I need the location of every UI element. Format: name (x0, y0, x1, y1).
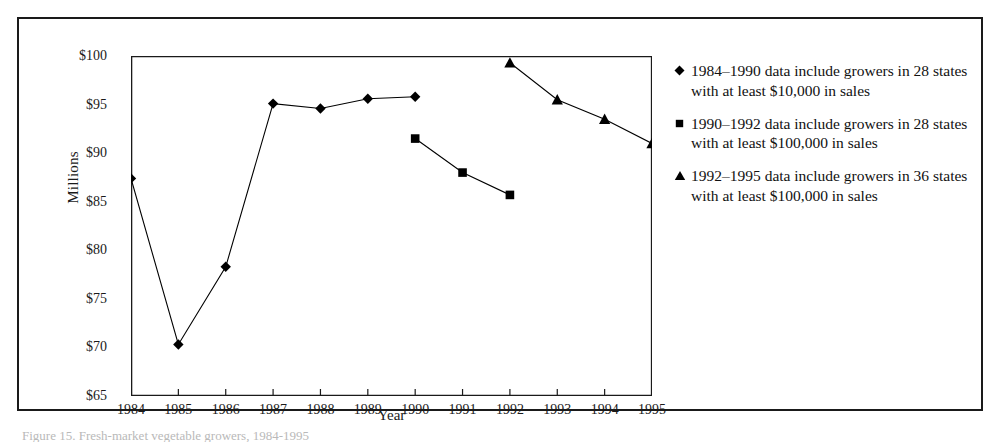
legend-item-series-1: 1984–1990 data include growers in 28 sta… (674, 61, 984, 101)
x-axis-title: Year (131, 407, 652, 424)
y-axis-tick-label: $85 (39, 194, 107, 210)
figure-container: Millions $65$70$75$80$85$90$95$100 19841… (0, 0, 997, 444)
plot-area (131, 56, 652, 396)
figure-caption: Figure 15. Fresh-market vegetable grower… (22, 428, 722, 442)
triangle-marker-icon (674, 170, 691, 181)
legend-label-series-3: 1992–1995 data include growers in 36 sta… (691, 166, 984, 206)
figure-frame: Millions $65$70$75$80$85$90$95$100 19841… (17, 17, 983, 411)
legend-label-series-1: 1984–1990 data include growers in 28 sta… (691, 61, 984, 101)
y-axis-tick-label: $70 (39, 339, 107, 355)
y-axis-tick-label: $100 (39, 48, 107, 64)
y-axis-tick-label: $65 (39, 388, 107, 404)
legend-item-series-2: 1990–1992 data include growers in 28 sta… (674, 114, 984, 154)
y-axis-tick-label: $90 (39, 145, 107, 161)
diamond-marker-icon (674, 65, 691, 76)
y-axis-title: Millions (65, 118, 82, 238)
square-marker-icon (674, 118, 691, 129)
y-axis-tick-label: $95 (39, 97, 107, 113)
legend-item-series-3: 1992–1995 data include growers in 36 sta… (674, 166, 984, 206)
y-axis-tick-label: $75 (39, 291, 107, 307)
chart-svg (131, 56, 652, 396)
chart-legend: 1984–1990 data include growers in 28 sta… (674, 61, 984, 219)
y-axis-tick-label: $80 (39, 242, 107, 258)
legend-label-series-2: 1990–1992 data include growers in 28 sta… (691, 114, 984, 154)
